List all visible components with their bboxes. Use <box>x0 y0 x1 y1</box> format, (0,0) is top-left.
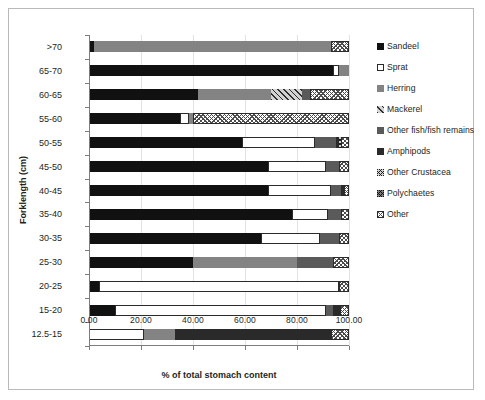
y-tick-label-30-35: 30-35 <box>39 233 62 243</box>
bar-segment-sandeel[interactable] <box>89 233 261 244</box>
legend-swatch-icon <box>377 190 384 197</box>
stacked-bar[interactable] <box>89 257 349 268</box>
bar-segment-other[interactable] <box>333 257 349 268</box>
stacked-bar[interactable] <box>89 89 349 100</box>
y-tick <box>85 226 89 227</box>
legend-label: Sandeel <box>387 41 419 52</box>
bar-segment-sprat[interactable] <box>180 113 189 124</box>
x-tick <box>89 346 90 350</box>
legend-swatch-icon <box>377 211 384 218</box>
bar-segment-sprat[interactable] <box>268 185 330 196</box>
bar-segment-herring[interactable] <box>339 65 349 76</box>
gridline-x <box>349 35 350 346</box>
legend-label: Amphipods <box>387 146 430 157</box>
x-tick-label: 60.00 <box>234 315 256 325</box>
x-tick-label: 100.00 <box>336 315 363 325</box>
bar-segment-sprat[interactable] <box>268 161 325 172</box>
legend-label: Sprat <box>387 62 408 73</box>
bar-segment-sandeel[interactable] <box>89 305 115 316</box>
bar-segment-amphipods[interactable] <box>175 329 331 340</box>
bar-segment-herring[interactable] <box>94 41 331 52</box>
bar-segment-sandeel[interactable] <box>89 161 268 172</box>
stacked-bar[interactable] <box>89 305 349 316</box>
x-axis-line <box>89 345 349 346</box>
bar-segment-sandeel[interactable] <box>89 185 268 196</box>
bar-segment-otherfish[interactable] <box>302 89 310 100</box>
bar-segment-otherfish[interactable] <box>326 161 339 172</box>
stacked-bar[interactable] <box>89 113 349 124</box>
bar-segment-sprat[interactable] <box>89 329 144 340</box>
plot-region <box>89 35 349 346</box>
legend-label: Other Crustacea <box>387 167 451 178</box>
x-tick <box>349 346 350 350</box>
bar-segment-otherfish[interactable] <box>331 185 341 196</box>
bar-segment-other[interactable] <box>331 41 349 52</box>
stacked-bar[interactable] <box>89 161 349 172</box>
bar-segment-other[interactable] <box>339 233 349 244</box>
y-tick <box>85 298 89 299</box>
bar-segment-otherfish[interactable] <box>320 233 338 244</box>
legend-swatch-icon <box>377 85 384 92</box>
x-axis-title: % of total stomach content <box>89 370 349 380</box>
bar-segment-other[interactable] <box>341 137 349 148</box>
y-tick-label-35-40: 35-40 <box>39 209 62 219</box>
bar-segment-sandeel[interactable] <box>89 209 292 220</box>
bar-segment-sandeel[interactable] <box>89 89 198 100</box>
bar-segment-herring[interactable] <box>193 257 297 268</box>
stacked-bar[interactable] <box>89 41 349 52</box>
bar-segment-other[interactable] <box>341 209 349 220</box>
legend-item-other-fish-fish-remains[interactable]: Other fish/fish remains <box>377 125 481 136</box>
legend-item-polychaetes[interactable]: Polychaetes <box>377 188 481 199</box>
bar-segment-other[interactable] <box>339 281 349 292</box>
bar-segment-otherfish[interactable] <box>326 305 334 316</box>
bar-segment-mackerel[interactable] <box>271 89 302 100</box>
bar-segment-otherfish[interactable] <box>297 257 333 268</box>
bar-segment-otherfish[interactable] <box>315 137 336 148</box>
y-tick <box>85 35 89 36</box>
legend-item-mackerel[interactable]: Mackerel <box>377 104 481 115</box>
stacked-bar[interactable] <box>89 137 349 148</box>
bar-segment-herring[interactable] <box>198 89 271 100</box>
stacked-bar[interactable] <box>89 329 349 340</box>
x-tick-label: 20.00 <box>130 315 152 325</box>
x-tick <box>245 346 246 350</box>
y-tick <box>85 107 89 108</box>
bar-segment-other[interactable] <box>340 305 349 316</box>
legend-item-other[interactable]: Other <box>377 209 481 220</box>
y-tick-label-55-60: 55-60 <box>39 114 62 124</box>
bar-segment-sprat[interactable] <box>261 233 321 244</box>
bar-row <box>89 41 349 52</box>
bar-segment-sandeel[interactable] <box>89 113 180 124</box>
bar-segment-other[interactable] <box>310 89 349 100</box>
stacked-bar[interactable] <box>89 65 349 76</box>
legend-item-amphipods[interactable]: Amphipods <box>377 146 481 157</box>
bar-segment-sandeel[interactable] <box>89 257 193 268</box>
stacked-bar[interactable] <box>89 281 349 292</box>
legend-item-sandeel[interactable]: Sandeel <box>377 41 481 52</box>
legend-label: Other <box>387 209 409 220</box>
legend-item-sprat[interactable]: Sprat <box>377 62 481 73</box>
stacked-bar[interactable] <box>89 185 349 196</box>
bar-segment-sandeel[interactable] <box>89 281 99 292</box>
bar-segment-sandeel[interactable] <box>89 137 242 148</box>
legend-swatch-icon <box>377 106 384 113</box>
legend-item-herring[interactable]: Herring <box>377 83 481 94</box>
bar-segment-other[interactable] <box>339 161 349 172</box>
bar-segment-other[interactable] <box>331 329 349 340</box>
bar-segment-sprat[interactable] <box>115 305 326 316</box>
legend-swatch-icon <box>377 127 384 134</box>
bar-segment-sprat[interactable] <box>292 209 328 220</box>
bar-segment-herring[interactable] <box>144 329 175 340</box>
bar-segment-other[interactable] <box>193 113 349 124</box>
bar-row <box>89 89 349 100</box>
stacked-bar[interactable] <box>89 233 349 244</box>
bar-segment-sprat[interactable] <box>99 281 338 292</box>
legend-item-other-crustacea[interactable]: Other Crustacea <box>377 167 481 178</box>
y-tick <box>85 155 89 156</box>
bar-segment-otherfish[interactable] <box>328 209 341 220</box>
bar-segment-other[interactable] <box>344 185 349 196</box>
bar-segment-sandeel[interactable] <box>89 65 333 76</box>
y-tick-label-25-30: 25-30 <box>39 257 62 267</box>
bar-segment-sprat[interactable] <box>242 137 315 148</box>
stacked-bar[interactable] <box>89 209 349 220</box>
